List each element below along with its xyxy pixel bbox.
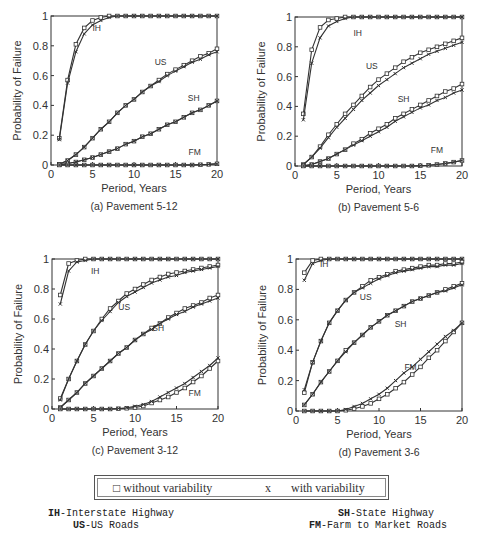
x-tick-label: 10 [128,168,140,180]
y-tick-label: 0.4 [34,343,49,355]
legend-with-variability: x with variability [265,481,365,496]
square-marker-icon [82,26,86,30]
series-annotation: US [118,302,130,312]
y-tick-label: 0.6 [277,71,292,83]
series-annotation: US [366,61,378,71]
square-marker-icon [183,386,187,390]
square-marker-icon [377,397,381,401]
y-tick-label: 0 [287,405,293,417]
square-marker-icon [419,365,423,369]
x-tick-label: 20 [456,169,468,181]
square-marker-icon [200,374,204,378]
square-marker-icon [435,45,439,49]
series-line [60,259,218,304]
panel-caption: (d) Pavement 3-6 [338,446,419,458]
square-marker-icon [435,348,439,352]
series-annotation: IH [92,23,101,33]
series-annotation: IH [320,259,329,269]
abbr-fm-text: -Farm to Market Roads [321,520,447,531]
square-marker-icon [427,356,431,360]
legend-without-label: without variability [123,481,212,495]
abbr-sh: SH-State Highway [338,508,434,519]
y-tick-label: 0.8 [34,283,49,295]
series-annotation: FM [431,145,443,155]
abbr-ih: IH-Interstate Highway [48,508,174,519]
x-tick-label: 15 [169,168,181,180]
y-tick-label: 0.4 [278,344,293,356]
square-marker-icon [410,373,414,377]
square-marker-icon [318,26,322,30]
x-tick-label: 20 [212,412,224,424]
chart-panel-d: 0510152000.20.40.60.81Period, YearsProba… [256,253,468,458]
x-tick-label: 20 [456,414,468,426]
square-marker-icon [91,19,95,23]
legend-without-variability: □ without variability [113,481,212,496]
x-tick-label: 5 [334,414,340,426]
square-marker-icon [394,386,398,390]
y-tick-label: 0.4 [277,100,292,112]
x-marker-icon [360,99,363,102]
x-marker-icon [394,72,397,75]
x-marker-icon: x [265,481,271,495]
square-marker-icon [393,66,397,70]
series-annotation: FM [404,362,416,372]
x-marker-icon [386,387,389,390]
y-tick-label: 0.2 [33,129,48,141]
square-marker-icon [435,94,439,98]
chart-panel-c: 0510152000.20.40.60.81Period, YearsProba… [12,253,224,456]
y-axis-label: Probability of Failure [11,40,23,140]
series-annotation: SH [188,93,200,103]
series-annotation: SH [152,323,164,333]
square-marker-icon [310,48,314,52]
abbr-us-code: US [73,520,85,531]
abbr-sh-code: SH [338,508,350,519]
square-marker-icon [444,339,448,343]
square-marker-icon [460,82,464,86]
x-marker-icon [344,117,347,120]
x-tick-label: 10 [372,169,384,181]
x-marker-icon [444,335,447,338]
x-tick-label: 10 [129,412,141,424]
x-tick-label: 15 [414,169,426,181]
y-tick-label: 0.8 [278,283,293,295]
square-marker-icon [327,18,331,22]
y-axis-label: Probability of Failure [255,41,267,141]
square-marker-icon [166,395,170,399]
y-axis-label: Probability of Failure [256,285,268,385]
y-tick-label: 1 [287,253,293,265]
square-marker-icon [175,391,179,395]
y-tick-label: 0 [42,159,48,171]
x-marker-icon [200,370,203,373]
series-annotation: FM [189,388,201,398]
series-line [303,17,462,120]
abbr-fm-code: FM [309,520,321,531]
abbr-sh-text: -State Highway [350,508,434,519]
x-tick-label: 15 [170,412,182,424]
x-tick-label: 20 [211,168,223,180]
x-marker-icon [385,78,388,81]
square-marker-icon [59,293,63,297]
y-tick-label: 0.4 [33,99,48,111]
square-marker-icon [303,271,307,275]
square-marker-icon [402,380,406,384]
square-marker-icon [444,90,448,94]
square-marker-icon [452,39,456,43]
series-annotation: US [360,292,372,302]
square-marker-icon [427,48,431,52]
x-axis-label: Period, Years [101,182,167,194]
square-marker-icon [74,43,78,47]
y-tick-label: 0 [43,403,49,415]
abbr-us-text: -US Roads [85,520,139,531]
x-marker-icon [394,379,397,382]
panel-caption: (a) Pavement 5-12 [91,200,178,212]
series-line [304,283,462,405]
legend-with-label: with variability [291,481,365,495]
chart-panel-a: 0510152000.20.40.60.81Period, YearsProba… [11,10,223,212]
y-tick-label: 1 [286,11,292,23]
square-marker-icon [385,72,389,76]
square-marker-icon [418,51,422,55]
y-tick-label: 0.6 [33,70,48,82]
square-marker-icon [377,78,381,82]
x-marker-icon [377,84,380,87]
series-annotation: IH [91,266,100,276]
